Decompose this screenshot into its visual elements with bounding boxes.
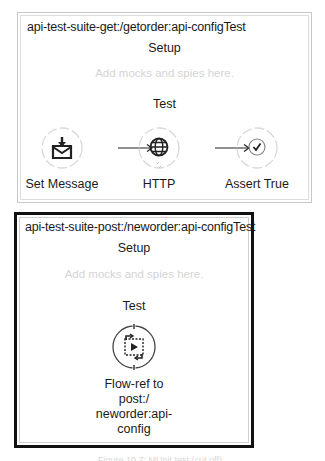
step-label: Set Message	[17, 177, 107, 192]
step-label-line: config	[89, 422, 179, 437]
flow-ref-icon	[110, 323, 158, 371]
step-http[interactable]: HTTP	[114, 126, 204, 192]
setup-hint[interactable]: Add mocks and spies here.	[17, 268, 251, 280]
test-label: Test	[17, 299, 251, 313]
step-label: Assert True	[212, 177, 302, 192]
setup-hint[interactable]: Add mocks and spies here.	[18, 67, 311, 79]
setup-label: Setup	[17, 241, 251, 255]
panel-title: api-test-suite-get:/getorder:api-configT…	[27, 20, 246, 34]
globe-icon	[137, 126, 181, 170]
step-flow-ref[interactable]: Flow-ref to post:/ neworder:api- config	[89, 323, 179, 437]
panel-title: api-test-suite-post:/neworder:api-config…	[25, 220, 255, 234]
figure-caption: Figure 10.7: MUnit test (cut off)	[70, 453, 250, 461]
step-label-line: neworder:api-	[89, 407, 179, 422]
step-assert-true[interactable]: Assert True	[212, 126, 302, 192]
setup-label: Setup	[18, 41, 311, 55]
step-label: Flow-ref to post:/ neworder:api- config	[89, 377, 179, 437]
set-message-icon	[40, 126, 84, 170]
test-panel-get[interactable]: api-test-suite-get:/getorder:api-configT…	[17, 12, 312, 203]
test-panel-post[interactable]: api-test-suite-post:/neworder:api-config…	[14, 212, 254, 448]
step-label-line: Flow-ref to post:/	[89, 377, 179, 407]
test-label: Test	[18, 97, 311, 111]
step-label: HTTP	[114, 177, 204, 192]
check-icon	[235, 126, 279, 170]
step-set-message[interactable]: Set Message	[17, 126, 107, 192]
